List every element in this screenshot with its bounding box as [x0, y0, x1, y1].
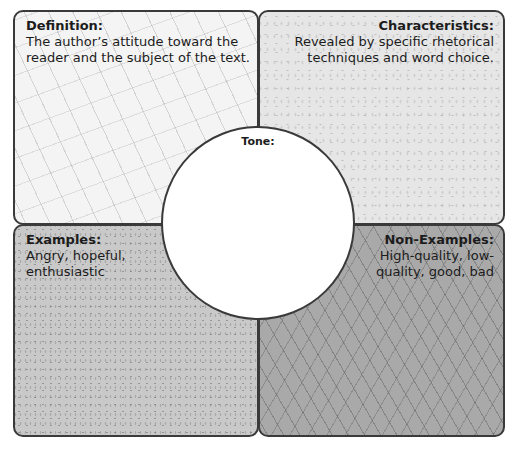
examples-text: Examples: Angry, hopeful, enthusiastic: [26, 232, 146, 280]
examples-body: Angry, hopeful, enthusiastic: [26, 248, 126, 279]
examples-heading: Examples:: [26, 232, 146, 248]
definition-body: The author’s attitude toward the reader …: [26, 34, 250, 65]
center-label: Tone:: [163, 135, 353, 148]
characteristics-text: Characteristics: Revealed by specific rh…: [264, 18, 494, 66]
definition-text: Definition: The author’s attitude toward…: [26, 18, 256, 66]
center-circle: Tone:: [161, 126, 355, 320]
non-examples-heading: Non-Examples:: [374, 232, 494, 248]
non-examples-body: High-quality, low-quality, good, bad: [376, 248, 494, 279]
characteristics-heading: Characteristics:: [264, 18, 494, 34]
characteristics-body: Revealed by specific rhetorical techniqu…: [294, 34, 494, 65]
non-examples-text: Non-Examples: High-quality, low-quality,…: [374, 232, 494, 280]
definition-heading: Definition:: [26, 18, 256, 34]
